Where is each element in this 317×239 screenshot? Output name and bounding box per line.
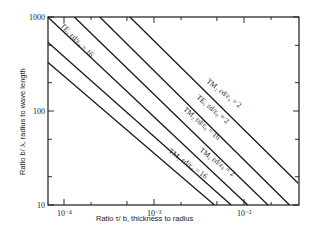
curve-labels: TE₁ εd/ε₀ = 16TM₂ εd/ε₀ = 2TE₁ εd/ε₀ = 2… [59,21,244,181]
chart: 10⁻⁴10⁻³10⁻²101001000 TE₁ εd/ε₀ = 16TM₂ … [0,0,317,239]
curve-label: TE₁ εd/ε₀ = 16 [59,21,96,59]
curve-line [48,62,215,205]
y-tick-label: 10 [37,201,45,210]
y-axis-title: Ratio b/ λ, radius to wave length [18,68,27,175]
y-tick-label: 100 [33,107,45,116]
curve-line [74,17,268,205]
x-tick-label: 10⁻² [237,209,252,218]
y-tick-label: 1000 [29,13,45,22]
x-axis-title: Ratio τ/ b, thickness to radius [96,214,193,223]
x-tick-label: 10⁻⁴ [57,209,72,218]
